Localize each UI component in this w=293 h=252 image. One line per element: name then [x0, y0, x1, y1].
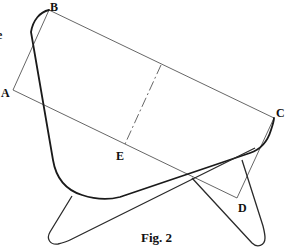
chair-leg-right	[192, 160, 265, 246]
point-label-c: C	[276, 106, 285, 120]
centerline-e	[125, 65, 161, 144]
figure-2-diagram: e A B C D E Fig. 2	[0, 0, 293, 252]
point-label-e: E	[116, 149, 124, 163]
edge-text-fragment: e	[0, 28, 3, 42]
point-label-a: A	[1, 86, 10, 100]
point-label-d: D	[238, 201, 247, 215]
figure-caption: Fig. 2	[141, 230, 172, 245]
point-label-b: B	[50, 0, 58, 14]
chair-seat-outline	[31, 10, 274, 199]
frame-lines	[13, 10, 274, 198]
